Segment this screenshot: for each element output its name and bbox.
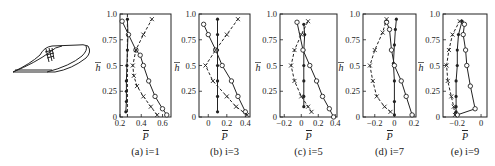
x-axis-label: P bbox=[221, 131, 227, 142]
dot-marker bbox=[302, 105, 305, 108]
cross-marker bbox=[388, 110, 392, 114]
dot-marker bbox=[303, 33, 306, 36]
dot-marker bbox=[395, 18, 398, 21]
cross-marker bbox=[234, 105, 238, 109]
circle-marker bbox=[468, 84, 472, 88]
circle-marker bbox=[160, 107, 164, 111]
chart-panel-2: 00.250.50.751.0h00.20.4 bbox=[174, 9, 251, 128]
circle-marker bbox=[120, 19, 124, 23]
dot-marker bbox=[216, 110, 219, 113]
x-tick-label: 0.2 bbox=[313, 118, 324, 128]
circle-marker bbox=[410, 113, 414, 117]
circle-marker bbox=[389, 48, 393, 52]
cross-marker bbox=[141, 94, 145, 98]
x-axis-label: P bbox=[142, 131, 148, 142]
dot-marker bbox=[394, 28, 397, 31]
circle-marker bbox=[331, 115, 335, 119]
x-tick-label: 0 bbox=[299, 118, 303, 128]
panel-caption: (b) i=3 bbox=[210, 146, 239, 157]
circle-marker bbox=[301, 48, 305, 52]
series-line-crosses bbox=[370, 19, 391, 112]
dot-marker bbox=[302, 64, 305, 67]
turbine-blade-icon bbox=[13, 45, 90, 72]
y-tick-label: 0.75 bbox=[425, 35, 440, 45]
y-tick-label: 0.5 bbox=[266, 61, 277, 71]
cross-marker bbox=[306, 105, 310, 109]
x-tick-label: 0.4 bbox=[330, 118, 341, 128]
x-tick-label: 0 bbox=[479, 118, 483, 128]
dot-marker bbox=[216, 33, 219, 36]
cross-marker bbox=[225, 94, 229, 98]
series-line-circles bbox=[387, 22, 413, 115]
chart-panel-3: 00.250.50.751.0h−0.200.20.4 bbox=[255, 9, 341, 128]
y-tick-label: 0.75 bbox=[181, 35, 196, 45]
y-tick-label: 0.25 bbox=[262, 86, 277, 96]
chart-panel-5: 00.250.50.751.0h−0.20 bbox=[418, 9, 487, 128]
y-tick-label: 0 bbox=[436, 112, 440, 122]
series-line-circles bbox=[457, 24, 475, 115]
y-tick-label: 0.75 bbox=[345, 35, 360, 45]
circle-marker bbox=[404, 94, 408, 98]
x-tick-label: −0.2 bbox=[367, 118, 382, 128]
circle-marker bbox=[229, 79, 233, 83]
x-tick-label: −0.2 bbox=[277, 118, 292, 128]
chart-panels: 00.250.50.751.0h0.20.40.600.250.50.751.0… bbox=[95, 9, 487, 128]
cross-marker bbox=[236, 17, 240, 21]
x-tick-label: 0.2 bbox=[115, 118, 126, 128]
dot-marker bbox=[216, 79, 219, 82]
x-tick-label: 0.2 bbox=[409, 118, 420, 128]
figure-canvas: 00.250.50.751.0h0.20.40.600.250.50.751.0… bbox=[0, 0, 495, 166]
cross-marker bbox=[306, 19, 310, 23]
cross-marker bbox=[309, 110, 313, 114]
chart-panel-4: 00.250.50.751.0h−0.200.2 bbox=[338, 9, 419, 128]
dot-marker bbox=[302, 79, 305, 82]
y-tick-label: 0.75 bbox=[262, 35, 277, 45]
dot-marker bbox=[393, 79, 396, 82]
circle-marker bbox=[392, 63, 396, 67]
panel-caption: (e) i=9 bbox=[451, 146, 479, 157]
circle-marker bbox=[399, 79, 403, 83]
y-axis-label: h bbox=[175, 62, 180, 73]
circle-marker bbox=[327, 107, 331, 111]
circle-marker bbox=[236, 94, 240, 98]
y-tick-label: 0.25 bbox=[102, 86, 117, 96]
x-tick-label: −0.2 bbox=[450, 118, 465, 128]
y-tick-label: 0.5 bbox=[185, 61, 196, 71]
dot-marker bbox=[393, 43, 396, 46]
y-tick-label: 0.25 bbox=[181, 86, 196, 96]
y-tick-label: 0.5 bbox=[429, 61, 440, 71]
circle-marker bbox=[387, 27, 391, 31]
circle-marker bbox=[465, 63, 469, 67]
x-axis-label: P bbox=[386, 131, 392, 142]
x-tick-label: 0.4 bbox=[240, 118, 251, 128]
x-tick-label: 0 bbox=[392, 118, 396, 128]
y-tick-label: 1.0 bbox=[429, 9, 440, 19]
panel-caption: (d) i=7 bbox=[375, 146, 404, 157]
y-tick-label: 0.5 bbox=[349, 61, 360, 71]
dot-marker bbox=[216, 95, 219, 98]
y-tick-label: 0.5 bbox=[106, 61, 117, 71]
circle-marker bbox=[461, 32, 465, 36]
circle-marker bbox=[473, 107, 477, 111]
cross-marker bbox=[225, 33, 229, 37]
y-axis-label: h bbox=[339, 62, 344, 73]
cross-marker bbox=[149, 105, 153, 109]
circle-marker bbox=[462, 22, 466, 26]
y-tick-label: 1.0 bbox=[349, 9, 360, 19]
circle-marker bbox=[314, 79, 318, 83]
dot-marker bbox=[454, 95, 457, 98]
y-tick-label: 0.75 bbox=[102, 35, 117, 45]
y-tick-label: 1.0 bbox=[266, 9, 277, 19]
y-axis-label: h bbox=[96, 62, 101, 73]
circle-marker bbox=[295, 20, 299, 24]
circle-marker bbox=[220, 63, 224, 67]
cross-marker bbox=[383, 105, 387, 109]
circle-marker bbox=[153, 94, 157, 98]
circle-marker bbox=[201, 22, 205, 26]
dot-marker bbox=[454, 79, 457, 82]
cross-marker bbox=[150, 17, 154, 21]
panel-caption: (c) i=5 bbox=[294, 146, 322, 157]
cross-marker bbox=[141, 33, 145, 37]
cross-marker bbox=[211, 79, 215, 83]
x-tick-label: 0 bbox=[206, 118, 210, 128]
